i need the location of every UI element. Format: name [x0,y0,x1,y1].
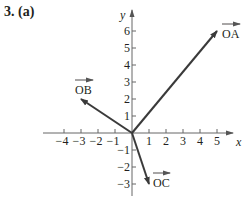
x-tick-label: −3 [73,134,86,148]
y-tick-label: 2 [124,92,130,106]
y-tick-label: 3 [124,75,130,89]
y-axis-label: y [119,8,126,22]
y-axis: 6 5 4 3 2 1 −1 −2 −3 y [117,8,136,196]
vector-oa: OA [132,24,240,133]
x-tick-label: 1 [146,134,152,148]
x-axis-label: x [235,135,242,149]
y-tick-label: −1 [117,143,130,157]
vector-label-oc: OC [153,176,170,190]
x-tick-label: 5 [214,134,220,148]
y-tick-label: 1 [124,109,130,123]
y-tick-label: 4 [124,58,130,72]
x-tick-label: 4 [197,134,203,148]
y-tick-label: −3 [117,177,130,191]
x-tick-label: 3 [180,134,186,148]
vector-label-oa: OA [222,27,240,41]
x-tick-label: −4 [56,134,69,148]
x-tick-label: −2 [90,134,103,148]
y-tick-label: 5 [124,41,130,55]
x-axis: −4 −3 −2 −1 1 2 3 4 5 x [43,129,242,149]
y-tick-label: 6 [124,24,130,38]
vector-label-ob: OB [75,83,92,97]
y-tick-label: −2 [117,160,130,174]
vector-diagram: −4 −3 −2 −1 1 2 3 4 5 x 6 5 4 [0,0,245,197]
x-tick-label: 2 [163,134,169,148]
